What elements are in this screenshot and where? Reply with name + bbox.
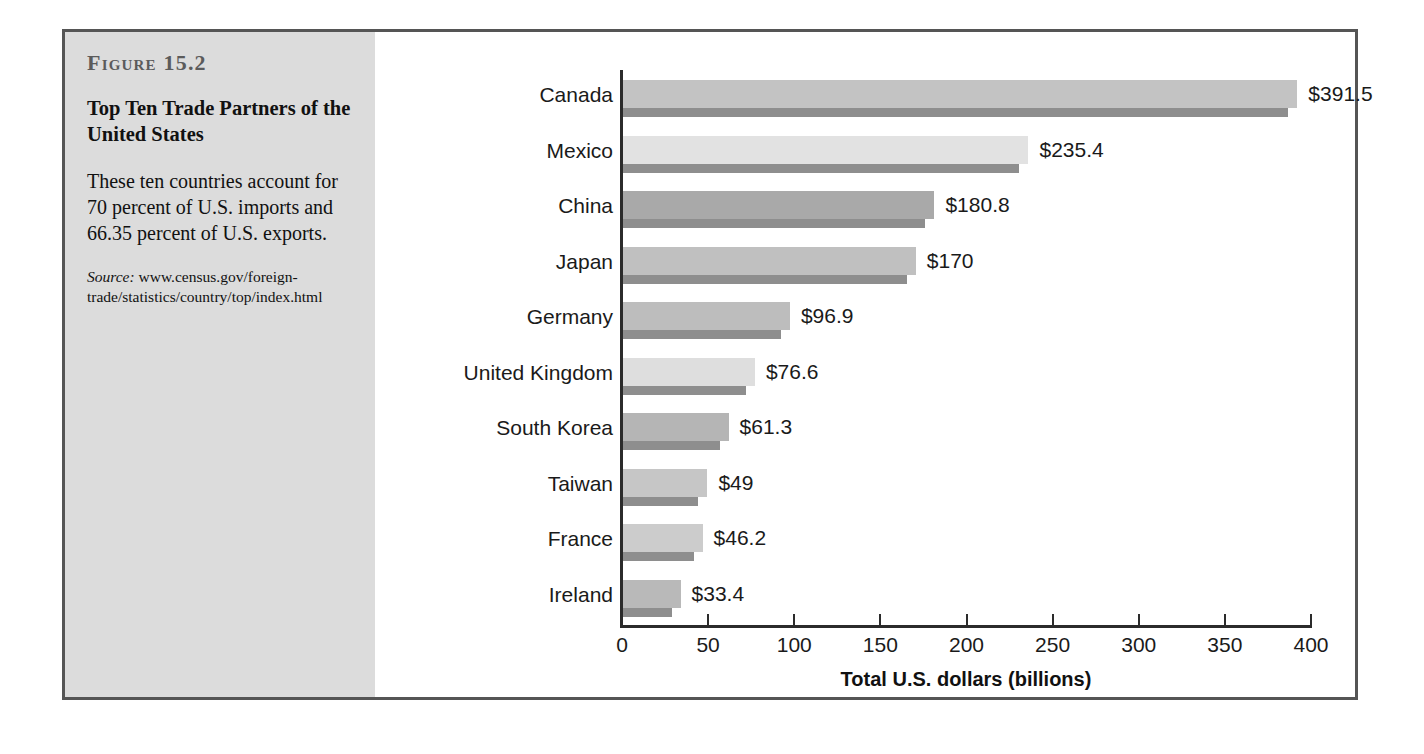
bar-shadow bbox=[623, 275, 907, 284]
x-axis-tick-label: 200 bbox=[949, 633, 984, 657]
figure-source: Source: www.census.gov/foreign-trade/sta… bbox=[87, 267, 353, 308]
x-axis-tick-label: 300 bbox=[1121, 633, 1156, 657]
x-axis-tick-mark bbox=[1224, 614, 1226, 626]
bar-category-label: United Kingdom bbox=[464, 361, 613, 385]
figure-description: These ten countries account for 70 perce… bbox=[87, 168, 353, 247]
figure-frame: Figure 15.2 Top Ten Trade Partners of th… bbox=[62, 29, 1358, 700]
bar-segment bbox=[623, 413, 729, 441]
bar-value-label: $33.4 bbox=[692, 582, 745, 606]
bar-segment bbox=[623, 580, 681, 608]
x-axis-tick-label: 100 bbox=[777, 633, 812, 657]
bar-category-label: France bbox=[548, 527, 613, 551]
x-axis-tick-label: 0 bbox=[616, 633, 628, 657]
bar-category-label: South Korea bbox=[496, 416, 613, 440]
bar-category-label: Mexico bbox=[546, 139, 613, 163]
x-axis-title: Total U.S. dollars (billions) bbox=[620, 668, 1312, 691]
bar-value-label: $61.3 bbox=[740, 415, 793, 439]
x-axis-tick-mark bbox=[966, 614, 968, 626]
source-label: Source: bbox=[87, 268, 135, 285]
bar-chart-plot: Canada$391.5Mexico$235.4China$180.8Japan… bbox=[375, 32, 1355, 697]
bar-category-label: Germany bbox=[527, 305, 613, 329]
figure-title: Top Ten Trade Partners of the United Sta… bbox=[87, 96, 353, 148]
bar-shadow bbox=[623, 108, 1288, 117]
bar-category-label: Taiwan bbox=[548, 472, 613, 496]
bar-value-label: $76.6 bbox=[766, 360, 819, 384]
x-axis-tick-mark bbox=[1052, 614, 1054, 626]
chart-panel: Canada$391.5Mexico$235.4China$180.8Japan… bbox=[375, 32, 1355, 697]
bar-value-label: $96.9 bbox=[801, 304, 854, 328]
x-axis-tick-mark bbox=[1310, 614, 1312, 626]
bar-value-label: $235.4 bbox=[1039, 138, 1103, 162]
bar-segment bbox=[623, 358, 755, 386]
x-axis-tick-label: 350 bbox=[1207, 633, 1242, 657]
bar-category-label: Canada bbox=[539, 83, 613, 107]
bar-category-label: Ireland bbox=[549, 583, 613, 607]
bar-category-label: Japan bbox=[556, 250, 613, 274]
figure-caption-panel: Figure 15.2 Top Ten Trade Partners of th… bbox=[65, 32, 375, 697]
x-axis-tick-mark bbox=[793, 614, 795, 626]
bar-value-label: $391.5 bbox=[1308, 82, 1372, 106]
x-axis-tick-mark bbox=[621, 614, 623, 626]
bar-segment bbox=[623, 302, 790, 330]
bar-value-label: $49 bbox=[718, 471, 753, 495]
bar-segment bbox=[623, 136, 1028, 164]
bar-segment bbox=[623, 191, 934, 219]
bar-value-label: $180.8 bbox=[945, 193, 1009, 217]
x-axis-tick-label: 250 bbox=[1035, 633, 1070, 657]
x-axis-tick-mark bbox=[879, 614, 881, 626]
x-axis-tick-label: 50 bbox=[696, 633, 719, 657]
x-axis-tick-mark bbox=[1138, 614, 1140, 626]
bar-value-label: $170 bbox=[927, 249, 974, 273]
x-axis-tick-mark bbox=[707, 614, 709, 626]
bar-shadow bbox=[623, 330, 781, 339]
bar-segment bbox=[623, 524, 703, 552]
figure-number: Figure 15.2 bbox=[87, 50, 353, 76]
bar-shadow bbox=[623, 164, 1019, 173]
bar-segment bbox=[623, 247, 916, 275]
bar-shadow bbox=[623, 219, 925, 228]
bar-shadow bbox=[623, 441, 720, 450]
bar-segment bbox=[623, 469, 707, 497]
bar-shadow bbox=[623, 497, 698, 506]
bar-value-label: $46.2 bbox=[714, 526, 767, 550]
bar-shadow bbox=[623, 552, 694, 561]
bar-segment bbox=[623, 80, 1297, 108]
bar-shadow bbox=[623, 608, 672, 617]
bar-shadow bbox=[623, 386, 746, 395]
bar-category-label: China bbox=[558, 194, 613, 218]
x-axis-tick-label: 400 bbox=[1293, 633, 1328, 657]
x-axis-tick-label: 150 bbox=[863, 633, 898, 657]
